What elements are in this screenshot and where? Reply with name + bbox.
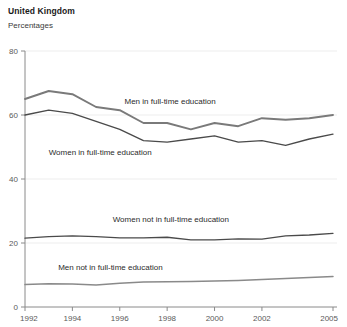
series-label: Men not in full-time education [58,263,163,272]
series-labels-group: Men in full-time educationMen in full-ti… [49,97,229,272]
x-tick-label: 1998 [158,314,176,323]
x-axis-ticks-group: 1992199419961998200020022005 [20,307,339,323]
x-tick-label: 1996 [111,314,129,323]
line-chart-plot: 020406080 1992199419961998200020022005 M… [0,0,347,327]
y-tick-label: 20 [9,239,18,248]
x-tick-label: 2000 [206,314,224,323]
series-lines-group [25,91,333,285]
y-tick-label: 60 [9,111,18,120]
y-tick-label: 40 [9,175,18,184]
y-tick-label: 80 [9,47,18,56]
x-tick-label: 1992 [20,314,38,323]
gridlines-group [25,51,337,243]
y-axis-ticks-group: 020406080 [9,47,25,312]
series-line [25,233,333,239]
series-label: Women not in full-time education [113,215,229,224]
series-label: Men in full-time education [125,97,216,106]
y-tick-label: 0 [14,303,19,312]
x-tick-label: 1994 [63,314,81,323]
series-label: Women in full-time education [49,148,152,157]
chart-container: United Kingdom Percentages 020406080 199… [0,0,347,327]
x-tick-label: 2002 [253,314,271,323]
series-line [25,277,333,285]
x-tick-label: 2005 [320,314,338,323]
